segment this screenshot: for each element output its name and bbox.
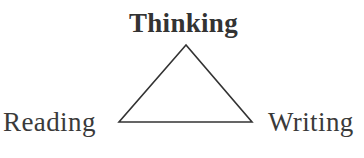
vertex-label-writing: Writing xyxy=(268,109,354,136)
thinking-reading-writing-diagram: Thinking Reading Writing xyxy=(0,0,364,158)
vertex-label-thinking: Thinking xyxy=(129,10,238,37)
vertex-label-reading: Reading xyxy=(3,109,96,136)
